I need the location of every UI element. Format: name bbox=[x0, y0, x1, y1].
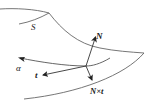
cross-product-label: N×t bbox=[90, 87, 103, 96]
surface-label: S bbox=[31, 23, 36, 32]
tangent-label: t bbox=[35, 71, 38, 80]
cross-vector-arrow bbox=[86, 66, 92, 80]
surface-top-edge bbox=[0, 9, 49, 13]
tangent-vector-arrow bbox=[43, 66, 86, 75]
curve-alpha-label: α bbox=[16, 64, 21, 73]
surface-bottom-edge bbox=[24, 53, 144, 99]
curve-alpha-arrowhead-icon bbox=[18, 57, 25, 62]
curve-alpha bbox=[20, 58, 110, 66]
darboux-frame-diagram: S N α t N×t bbox=[0, 0, 152, 105]
normal-label: N bbox=[96, 32, 103, 41]
diagram-canvas bbox=[0, 0, 152, 105]
normal-vector-arrow bbox=[86, 37, 96, 66]
